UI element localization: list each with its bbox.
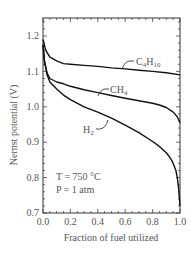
x-tick-labels: 0.0 0.2 0.4 0.6 0.8 1.0 [37,216,187,227]
x-tick-label: 0.0 [37,216,50,227]
y-tick-labels: 0.7 0.8 0.9 1.0 1.1 1.2 [27,30,40,218]
x-tick-label: 1.0 [174,216,187,227]
x-tick-label: 0.8 [146,216,159,227]
y-tick-label: 1.0 [27,101,40,112]
y-tick-label: 1.1 [27,66,40,77]
c4h10-leader [122,61,134,69]
x-tick-label: 0.2 [64,216,77,227]
h2-leader [96,120,108,129]
leader-lines [96,61,134,129]
h2-label: H2 [83,124,94,137]
y-tick-label: 0.8 [27,172,40,183]
x-tick-label: 0.6 [119,216,132,227]
y-axis-label: Nernst potential (V) [8,85,20,166]
c4h10-label: C4H10 [136,56,161,69]
x-tick-label: 0.4 [92,216,105,227]
nernst-potential-chart: 0.7 0.8 0.9 1.0 1.1 1.2 0.0 0.2 0.4 0.6 … [0,0,191,256]
c4h10-curve [43,40,180,75]
temperature-annotation: T = 750 °C [56,171,101,182]
y-tick-label: 1.2 [27,30,40,41]
pressure-annotation: P = 1 atm [56,184,95,195]
x-axis-label: Fraction of fuel utilized [64,232,159,243]
y-tick-label: 0.9 [27,136,40,147]
